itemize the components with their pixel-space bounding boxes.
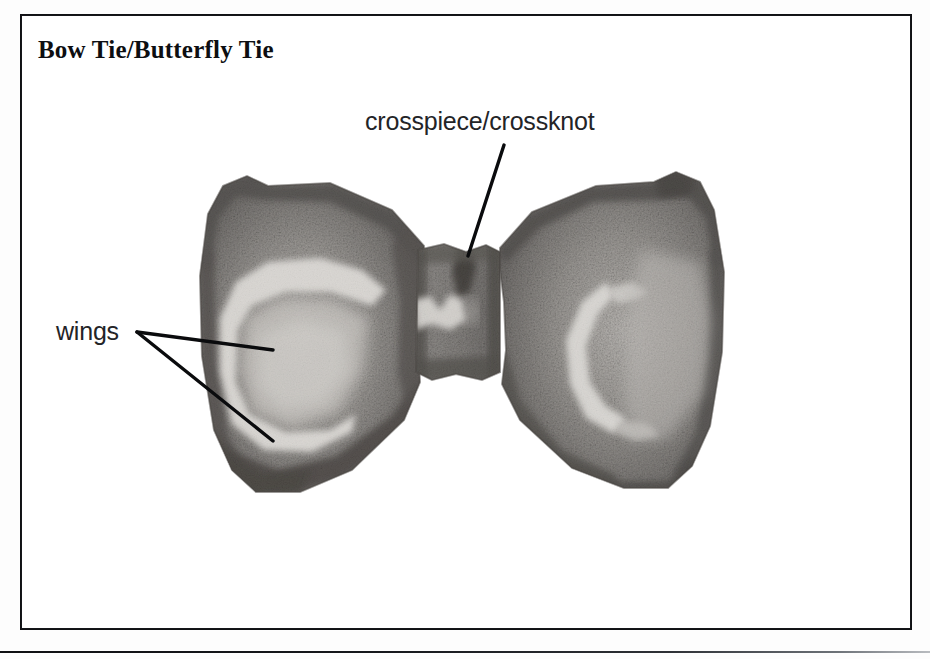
annotation-label-crosspiece: crosspiece/crossknot [365, 107, 594, 136]
baseline-rule [0, 651, 930, 653]
figure-page: Bow Tie/Butterfly Tie [0, 0, 930, 659]
page-title: Bow Tie/Butterfly Tie [38, 36, 274, 64]
annotation-label-wings: wings [56, 317, 119, 346]
